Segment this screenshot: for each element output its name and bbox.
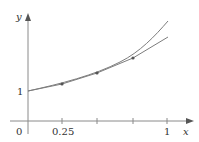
x-tick-label-1: 1 bbox=[164, 126, 170, 137]
euler-method-chart: y x 0 1 0.25 1 bbox=[0, 0, 199, 142]
y-tick-label-1: 1 bbox=[17, 86, 23, 97]
euler-point-1 bbox=[60, 82, 63, 85]
y-axis-arrow-icon bbox=[25, 13, 31, 21]
origin-label: 0 bbox=[16, 126, 22, 137]
x-tick-label-0.25: 0.25 bbox=[52, 126, 74, 137]
exact-solution-curve bbox=[28, 21, 168, 91]
euler-approximation-path bbox=[28, 37, 168, 91]
x-axis-arrow-icon bbox=[186, 118, 194, 124]
x-axis-label: x bbox=[183, 126, 189, 137]
y-axis-label: y bbox=[15, 11, 22, 22]
euler-point-3 bbox=[131, 56, 134, 59]
euler-point-2 bbox=[95, 71, 98, 74]
